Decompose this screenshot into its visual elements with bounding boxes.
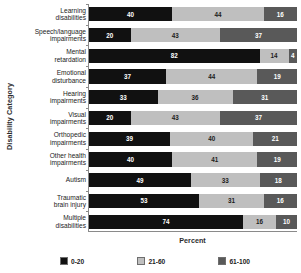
bar-segment-0-20: 49	[89, 173, 191, 187]
bar-row: 333631	[89, 90, 297, 104]
bar-segment-61-100: 16	[264, 194, 297, 208]
bar-segment-0-20: 74	[89, 215, 243, 229]
bar-segment-0-20: 33	[89, 90, 158, 104]
legend-swatch-icon	[137, 257, 145, 265]
y-axis-tick	[86, 25, 89, 26]
legend-swatch-icon	[60, 257, 68, 265]
y-axis-title-label: Disability Category	[5, 82, 14, 149]
category-label: Emotional disturbance	[16, 69, 86, 84]
category-label: Mental retardation	[16, 48, 86, 63]
plot-area: 4044162043378214437441933363120433739402…	[88, 4, 297, 232]
bar-row: 404119	[89, 152, 297, 166]
bar-segment-21-60: 44	[172, 7, 264, 21]
bar-segment-0-20: 20	[89, 111, 131, 125]
bar-segment-0-20: 40	[89, 7, 172, 21]
bar-segment-61-100: 10	[276, 215, 297, 229]
bar-row: 204337	[89, 28, 297, 42]
y-axis-tick	[86, 170, 89, 171]
bar-row: 404416	[89, 7, 297, 21]
bar-segment-0-20: 82	[89, 49, 260, 63]
legend-label: 61-100	[229, 258, 250, 265]
x-axis-title: Percent	[88, 236, 297, 245]
y-axis-tick	[86, 108, 89, 109]
bar-segment-61-100: 18	[260, 173, 297, 187]
bar-segment-61-100: 19	[257, 69, 297, 83]
category-label: Other health impairments	[16, 152, 86, 167]
bar-row: 533116	[89, 194, 297, 208]
category-label: Learning disabilities	[16, 7, 86, 22]
bar-segment-21-60: 36	[158, 90, 233, 104]
bar-segment-61-100: 31	[233, 90, 297, 104]
bar-segment-0-20: 20	[89, 28, 131, 42]
bar-segment-61-100: 4	[289, 49, 297, 63]
bar-segment-21-60: 40	[170, 132, 253, 146]
y-axis-tick	[86, 87, 89, 88]
bar-segment-21-60: 41	[172, 152, 257, 166]
bar-segment-61-100: 16	[264, 7, 297, 21]
legend-item: 61-100	[218, 257, 250, 265]
category-label: Orthopedic impairments	[16, 131, 86, 146]
bar-segment-21-60: 43	[131, 111, 220, 125]
category-label: Traumatic brain injury	[16, 194, 86, 209]
y-axis-tick	[86, 128, 89, 129]
y-axis-tick	[86, 149, 89, 150]
legend-label: 0-20	[71, 258, 84, 265]
bar-segment-21-60: 44	[166, 69, 258, 83]
bar-row: 204337	[89, 111, 297, 125]
bar-segment-61-100: 19	[257, 152, 297, 166]
legend-label: 21-60	[148, 258, 165, 265]
bar-row: 493318	[89, 173, 297, 187]
stacked-bar-chart: Disability Category Learning disabilitie…	[0, 0, 301, 273]
legend-swatch-icon	[218, 257, 226, 265]
legend-item: 21-60	[137, 257, 165, 265]
bar-segment-0-20: 40	[89, 152, 172, 166]
bar-row: 82144	[89, 49, 297, 63]
category-label: Visual impairments	[16, 111, 86, 126]
bar-segment-0-20: 39	[89, 132, 170, 146]
y-axis-tick	[86, 66, 89, 67]
bar-segment-0-20: 53	[89, 194, 199, 208]
bar-row: 394021	[89, 132, 297, 146]
chart-legend: 0-2021-6061-100	[60, 254, 250, 268]
legend-item: 0-20	[60, 257, 84, 265]
bar-segment-61-100: 21	[253, 132, 297, 146]
bar-row: 741610	[89, 215, 297, 229]
category-label: Multiple disabilities	[16, 214, 86, 229]
category-label-column: Learning disabilitiesSpeech/language imp…	[16, 4, 86, 232]
bar-segment-21-60: 43	[131, 28, 220, 42]
bar-segment-61-100: 37	[220, 111, 297, 125]
bar-segment-21-60: 14	[260, 49, 289, 63]
bar-segment-61-100: 37	[220, 28, 297, 42]
category-label: Speech/language impairments	[16, 28, 86, 43]
bar-segment-21-60: 33	[191, 173, 260, 187]
y-axis-title: Disability Category	[2, 0, 16, 232]
y-axis-tick	[86, 211, 89, 212]
category-label: Autism	[16, 176, 86, 183]
y-axis-tick	[86, 4, 89, 5]
category-label: Hearing impairments	[16, 90, 86, 105]
bar-segment-0-20: 37	[89, 69, 166, 83]
bar-row: 374419	[89, 69, 297, 83]
y-axis-tick	[86, 191, 89, 192]
bar-segment-21-60: 31	[199, 194, 263, 208]
y-axis-tick	[86, 45, 89, 46]
bar-segment-21-60: 16	[243, 215, 276, 229]
